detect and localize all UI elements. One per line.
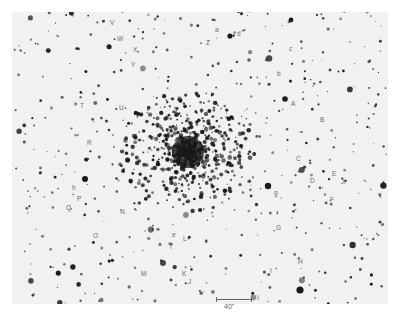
- star-label-Q: Q: [66, 205, 71, 212]
- star-label-O: O: [93, 233, 98, 240]
- star-label-K: K: [182, 271, 186, 278]
- star-label-V: V: [110, 20, 114, 27]
- star-label-I: I: [270, 268, 272, 275]
- star-label-e: e: [172, 232, 176, 239]
- star-label-d: d: [237, 31, 241, 38]
- star-label-a: a: [215, 27, 219, 34]
- star-label-J: J: [188, 279, 191, 286]
- star-label-N: N: [120, 209, 125, 216]
- star-label-b: b: [277, 71, 281, 78]
- star-label-Z: Z: [206, 40, 210, 47]
- star-label-I2: I: [257, 295, 259, 302]
- star-label-G: G: [276, 225, 281, 232]
- scale-bar-label: 40": [224, 303, 234, 310]
- scale-bar: [216, 299, 252, 302]
- star-label-f: f: [170, 244, 172, 251]
- star-label-T: T: [80, 103, 84, 110]
- star-label-D: D: [310, 178, 315, 185]
- star-label-M: M: [141, 271, 146, 278]
- star-field: [12, 12, 388, 304]
- star-label-F: F: [330, 197, 334, 204]
- star-label-W: W: [117, 36, 123, 43]
- star-label-Y: Y: [131, 62, 135, 69]
- star-label-h: h: [72, 185, 76, 192]
- star-label-R: R: [87, 140, 92, 147]
- star-label-L: L: [183, 236, 187, 243]
- star-label-E: E: [332, 171, 336, 178]
- star-label-C: C: [296, 156, 301, 163]
- star-label-B: B: [320, 117, 324, 124]
- star-label-H: H: [298, 259, 303, 266]
- star-label-c: c: [289, 46, 292, 53]
- star-label-A: A: [291, 101, 295, 108]
- star-label-X: X: [133, 47, 137, 54]
- star-field-plate: [12, 12, 388, 304]
- star-label-P: P: [77, 196, 81, 203]
- star-label-g: g: [274, 190, 278, 197]
- star-label-J2: J: [341, 179, 344, 186]
- star-label-U: U: [119, 105, 124, 112]
